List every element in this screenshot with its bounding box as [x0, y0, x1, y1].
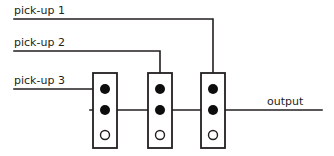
- potentiometer-3-lug-top: [208, 84, 218, 94]
- potentiometer-3-lug-bottom: [209, 131, 218, 140]
- label-pickup-2: pick-up 2: [14, 36, 65, 49]
- schematic-svg: pick-up 1 pick-up 2 pick-up 3 output: [0, 0, 334, 156]
- potentiometer-2-lug-middle: [155, 105, 165, 115]
- potentiometer-1-lug-middle: [100, 105, 110, 115]
- label-output: output: [267, 95, 304, 108]
- potentiometer-1-lug-top: [100, 84, 110, 94]
- potentiometer-2-lug-bottom: [156, 131, 165, 140]
- potentiometer-3-lug-middle: [208, 105, 218, 115]
- label-pickup-1: pick-up 1: [14, 4, 65, 17]
- potentiometer-1-lug-bottom: [101, 131, 110, 140]
- pickup-wiring-diagram: pick-up 1 pick-up 2 pick-up 3 output: [0, 0, 334, 156]
- label-pickup-3: pick-up 3: [14, 74, 65, 87]
- potentiometer-2-lug-top: [155, 84, 165, 94]
